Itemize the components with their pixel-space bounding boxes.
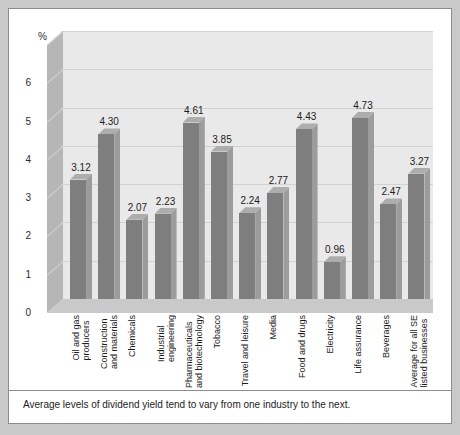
bar-side-face (171, 208, 177, 299)
bar-value-label: 3.85 (205, 134, 239, 145)
bar-column[interactable]: 2.23 (155, 198, 177, 299)
bar-side-face (86, 174, 92, 299)
gridline (61, 31, 433, 32)
x-axis-category-label: Life assurance (353, 315, 363, 374)
bar-value-label: 3.27 (402, 156, 436, 167)
bar-value-label: 2.77 (261, 175, 295, 186)
bar-value-label: 4.73 (346, 100, 380, 111)
bar-front-face (98, 134, 114, 299)
x-axis-category-label: Chemicals (127, 315, 137, 357)
bar-side-face (255, 207, 261, 299)
bar-column[interactable]: 2.47 (380, 188, 402, 299)
bar-value-label: 2.24 (233, 195, 267, 206)
bar-chart: % 0123456 3.124.302.072.234.613.852.242.… (9, 9, 451, 389)
plot-floor (47, 299, 433, 313)
bar-side-face (312, 123, 318, 299)
x-axis-category-label: Tobacco (212, 315, 222, 349)
bar-side-face (396, 198, 402, 299)
bar-value-label: 0.96 (318, 244, 352, 255)
bar-front-face (352, 118, 368, 299)
bar-value-label: 3.12 (64, 162, 98, 173)
bar-side-face (340, 256, 346, 299)
bar-value-label: 2.47 (374, 186, 408, 197)
bar-column[interactable]: 3.85 (211, 136, 233, 299)
bar-front-face (70, 180, 86, 299)
bar-value-label: 2.23 (149, 196, 183, 207)
bar-side-face (142, 214, 148, 299)
y-tick-label: 5 (9, 116, 31, 127)
bar-value-label: 4.43 (290, 111, 324, 122)
bar-side-face (114, 128, 120, 299)
bar-side-face (424, 168, 430, 299)
bar-side-face (283, 187, 289, 299)
x-axis-category-label: Electricity (325, 315, 335, 354)
bar-column[interactable]: 2.77 (267, 177, 289, 299)
figure-card: % 0123456 3.124.302.072.234.613.852.242.… (8, 8, 452, 424)
y-tick-label: 0 (9, 307, 31, 318)
x-axis-category-label: Travel and leisure (240, 315, 250, 386)
bar-front-face (408, 174, 424, 299)
bar-front-face (155, 214, 171, 299)
x-axis-category-label: Media (268, 315, 278, 340)
bar-column[interactable]: 3.27 (408, 158, 430, 299)
x-axis-category-labels: Oil and gas producersConstruction and ma… (45, 315, 433, 389)
bar-side-face (227, 146, 233, 299)
x-axis-category-label: Average for all SE listed businesses (409, 315, 429, 387)
x-axis-category-label: Pharmaceuticals and biotechnology (184, 315, 204, 388)
plot-left-wall (47, 31, 63, 313)
bar-front-face (267, 193, 283, 299)
bar-front-face (380, 204, 396, 299)
gridline (61, 69, 433, 70)
x-axis-category-label: Construction and materials (99, 315, 119, 369)
bar-column[interactable]: 2.07 (126, 204, 148, 299)
bar-side-face (368, 112, 374, 299)
caption-divider (9, 390, 451, 391)
y-axis-unit-label: % (27, 31, 47, 42)
y-tick-label: 1 (9, 269, 31, 280)
y-tick-label: 4 (9, 154, 31, 165)
y-tick-label: 2 (9, 230, 31, 241)
bar-column[interactable]: 3.12 (70, 164, 92, 299)
bar-front-face (183, 123, 199, 299)
x-axis-category-label: Industrial engineering (156, 315, 176, 362)
bar-column[interactable]: 4.61 (183, 107, 205, 299)
y-tick-label: 6 (9, 77, 31, 88)
bar-side-face (199, 117, 205, 299)
figure-caption: Average levels of dividend yield tend to… (23, 399, 439, 410)
y-tick-label: 3 (9, 192, 31, 203)
x-axis-category-label: Beverages (381, 315, 391, 358)
bar-column[interactable]: 0.96 (324, 246, 346, 299)
bar-column[interactable]: 4.73 (352, 102, 374, 299)
bar-front-face (126, 220, 142, 299)
bar-column[interactable]: 2.24 (239, 197, 261, 299)
bar-front-face (211, 152, 227, 299)
bar-front-face (296, 129, 312, 299)
plot-area: 3.124.302.072.234.613.852.242.774.430.96… (45, 31, 433, 313)
bar-value-label: 4.61 (177, 105, 211, 116)
x-axis-category-label: Oil and gas producers (71, 315, 91, 361)
bar-value-label: 4.30 (92, 116, 126, 127)
bar-column[interactable]: 4.43 (296, 113, 318, 299)
bar-column[interactable]: 4.30 (98, 118, 120, 299)
x-axis-category-label: Food and drugs (297, 315, 307, 378)
bar-front-face (324, 262, 340, 299)
bar-front-face (239, 213, 255, 299)
